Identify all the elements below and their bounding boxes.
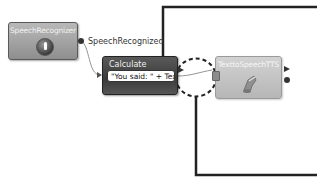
microphone-icon [36,38,54,56]
speaker-icon [240,72,260,94]
speech-recognized-event-label: SpeechRecognized [88,37,163,46]
text-to-speech-title: TexttoSpeechTTS [216,60,281,69]
output-port-dot[interactable] [78,38,84,44]
calculate-title: Calculate [109,60,146,69]
tts-output-dot[interactable] [284,77,290,83]
callout-line-bottom [196,97,317,175]
calculate-block[interactable]: Calculate "You said: " + Text [102,56,178,95]
callout-line-top [163,7,317,60]
tts-output-arrow[interactable] [284,66,290,72]
highlight-ellipse [176,59,216,97]
calculate-expression-input[interactable]: "You said: " + Text [107,70,175,82]
text-to-speech-block[interactable]: TexttoSpeechTTS [215,56,282,99]
speech-recognizer-block[interactable]: SpeechRecognizer [8,22,78,60]
connection-sr-to-calc[interactable] [81,41,100,75]
calculate-output-arrow[interactable] [178,67,184,73]
tts-input-port[interactable] [212,71,220,81]
speech-recognizer-title: SpeechRecognizer [9,26,77,35]
